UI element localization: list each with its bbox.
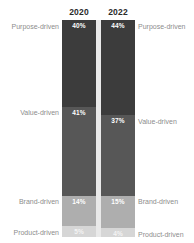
segment-2022-value-driven[interactable]: 37% — [101, 115, 135, 195]
segment-2020-brand-driven[interactable]: 14% — [62, 196, 96, 226]
segment-2020-purpose-driven[interactable]: 40% — [62, 20, 96, 107]
category-label-left-value-driven: Value-driven — [20, 108, 59, 117]
category-label-right-product-driven: Product-driven — [138, 230, 184, 239]
category-label-left-product-driven: Product-driven — [13, 228, 59, 237]
bar-column-2022: 44% 37% 15% 4% — [101, 20, 135, 237]
category-label-right-value-driven: Value-driven — [138, 117, 177, 126]
category-label-left-purpose-driven: Purpose-driven — [12, 22, 59, 31]
category-label-right-purpose-driven: Purpose-driven — [138, 22, 185, 31]
segment-value-2022-product-driven: 4% — [101, 230, 135, 238]
segment-value-2020-purpose-driven: 40% — [62, 22, 96, 30]
segment-value-2022-purpose-driven: 44% — [101, 22, 135, 30]
segment-2020-product-driven[interactable]: 5% — [62, 226, 96, 237]
stacked-bar-chart: 2020 2022 40% 41% 14% 5% 44% 37% 15% 4% — [0, 0, 194, 243]
column-header-2020: 2020 — [62, 7, 96, 17]
bar-column-2020: 40% 41% 14% 5% — [62, 20, 96, 237]
category-label-right-brand-driven: Brand-driven — [138, 197, 178, 206]
segment-value-2022-brand-driven: 15% — [101, 198, 135, 206]
segment-value-2020-brand-driven: 14% — [62, 198, 96, 206]
segment-value-2020-value-driven: 41% — [62, 109, 96, 117]
segment-2022-brand-driven[interactable]: 15% — [101, 196, 135, 229]
category-label-left-brand-driven: Brand-driven — [19, 197, 59, 206]
segment-value-2020-product-driven: 5% — [62, 228, 96, 236]
segment-2022-purpose-driven[interactable]: 44% — [101, 20, 135, 115]
segment-2022-product-driven[interactable]: 4% — [101, 228, 135, 237]
segment-value-2022-value-driven: 37% — [101, 117, 135, 125]
column-header-2022: 2022 — [101, 7, 135, 17]
segment-2020-value-driven[interactable]: 41% — [62, 107, 96, 196]
